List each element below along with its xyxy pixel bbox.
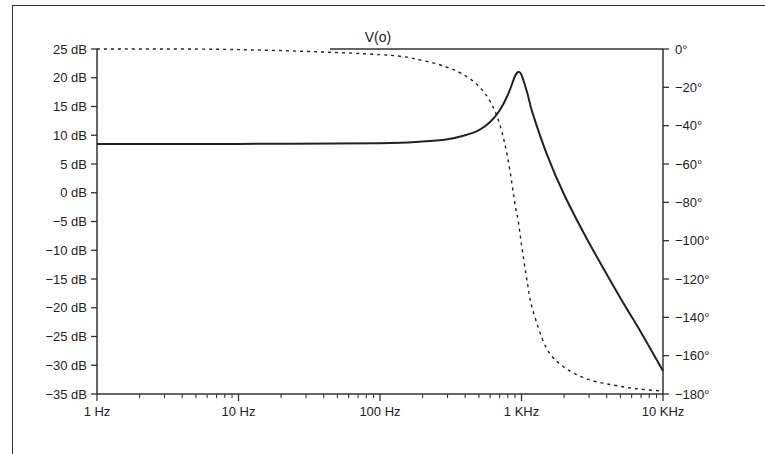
x-tick-label: 1 KHz — [504, 404, 539, 419]
right-tick-label: −180° — [675, 387, 709, 402]
right-tick-label: −140° — [675, 310, 709, 325]
right-tick-label: −160° — [675, 348, 709, 363]
left-tick-label: −30 dB — [45, 358, 87, 373]
plot-series — [97, 49, 663, 391]
left-tick-label: −10 dB — [45, 243, 87, 258]
right-tick-label: 0° — [675, 42, 687, 57]
right-y-axis-degrees: 0°−20°−40°−60°−80°−100°−120°−140°−160°−1… — [663, 42, 709, 402]
right-tick-label: −80° — [675, 195, 702, 210]
chart-title: V(o) — [365, 29, 391, 45]
left-tick-label: 20 dB — [53, 70, 87, 85]
left-tick-label: 0 dB — [60, 185, 87, 200]
left-tick-label: 15 dB — [53, 99, 87, 114]
left-tick-label: −20 dB — [45, 300, 87, 315]
left-tick-label: 25 dB — [53, 42, 87, 57]
left-tick-label: −5 dB — [53, 214, 87, 229]
left-tick-label: −15 dB — [45, 272, 87, 287]
left-tick-label: −25 dB — [45, 329, 87, 344]
x-tick-label: 10 KHz — [642, 404, 685, 419]
magnitude-curve — [97, 72, 663, 371]
right-tick-label: −60° — [675, 157, 702, 172]
phase-curve — [97, 49, 663, 391]
x-axis-frequency: 1 Hz10 Hz100 Hz1 KHz10 KHz — [84, 394, 685, 419]
x-tick-label: 1 Hz — [84, 404, 111, 419]
left-tick-label: 5 dB — [60, 157, 87, 172]
right-tick-label: −100° — [675, 233, 709, 248]
left-tick-label: −35 dB — [45, 387, 87, 402]
left-tick-label: 10 dB — [53, 128, 87, 143]
right-tick-label: −120° — [675, 272, 709, 287]
right-tick-label: −40° — [675, 118, 702, 133]
right-tick-label: −20° — [675, 80, 702, 95]
x-tick-label: 10 Hz — [222, 404, 256, 419]
left-y-axis-db: 25 dB20 dB15 dB10 dB5 dB0 dB−5 dB−10 dB−… — [45, 42, 97, 402]
bode-plot: V(o) 25 dB20 dB15 dB10 dB5 dB0 dB−5 dB−1… — [0, 0, 765, 454]
x-tick-label: 100 Hz — [359, 404, 400, 419]
